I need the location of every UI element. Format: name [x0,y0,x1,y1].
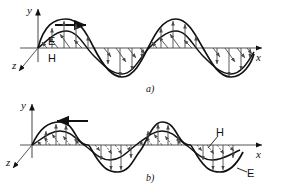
em-wave-figure: x y z [0,0,281,191]
panel-b-e-leader [237,168,247,172]
panel-a-e-label: E [48,35,55,47]
panel-b-e-vectors [37,134,234,154]
panel-a: x y z [11,4,262,95]
panel-b-h-curve [32,122,243,172]
panel-b-h-wave [32,122,243,172]
panel-b: x y z [5,99,262,184]
panel-b-x-axis-label: x [255,148,261,160]
panel-b-caption: b) [146,172,155,184]
panel-b-z-axis [13,145,32,168]
panel-b-h-label: H [216,126,224,138]
panel-a-caption: a) [146,83,155,95]
panel-a-z-axis [19,48,38,71]
panel-a-h-label: H [48,52,56,64]
panel-a-z-axis-label: z [11,59,17,71]
panel-b-y-axis-label: y [20,99,26,111]
panel-b-z-axis-label: z [5,156,11,168]
panel-a-x-axis-label: x [255,51,261,63]
panel-b-e-label: E [247,167,254,179]
panel-a-y-axis-label: y [26,4,32,16]
